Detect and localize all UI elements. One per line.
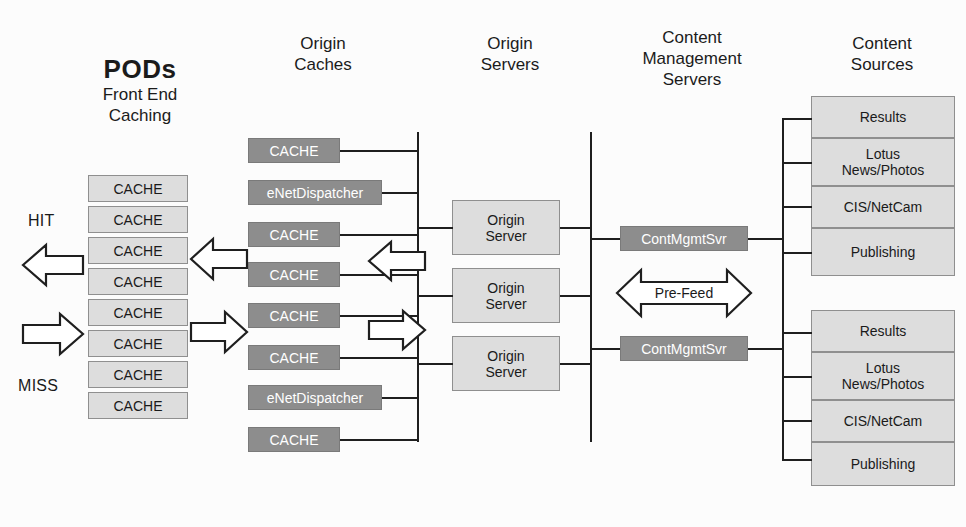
content-source-box[interactable]: Lotus News/Photos	[811, 352, 955, 400]
column-title-origin-servers: Origin Servers	[440, 33, 580, 75]
connector-line	[560, 227, 591, 229]
origin-server-box[interactable]: Origin Server	[452, 200, 560, 255]
pod-cache-box[interactable]: CACHE	[88, 268, 188, 295]
column-title-pods: PODs Front End Caching	[60, 26, 220, 155]
connector-line	[782, 252, 812, 254]
connector-line	[417, 227, 453, 229]
column-title-content-management-servers: Content Management Servers	[612, 27, 772, 90]
connector-line	[782, 206, 812, 208]
content-sources-trunk-line	[782, 118, 784, 459]
connector-line	[782, 459, 812, 461]
origin-cache-box[interactable]: CACHE	[248, 222, 340, 247]
content-source-box[interactable]: CIS/NetCam	[811, 400, 955, 442]
column-title-content-sources: Content Sources	[812, 33, 952, 75]
pod-cache-box[interactable]: CACHE	[88, 299, 188, 326]
connector-line	[590, 348, 620, 350]
content-management-server-box[interactable]: ContMgmtSvr	[620, 336, 748, 361]
origin-cache-inbound-arrow-left-icon	[368, 240, 426, 282]
origin-cache-enetdispatcher-box[interactable]: eNetDispatcher	[248, 385, 382, 410]
pod-cache-box[interactable]: CACHE	[88, 330, 188, 357]
miss-label: MISS	[18, 377, 58, 395]
origin-cache-enetdispatcher-box[interactable]: eNetDispatcher	[248, 180, 382, 205]
connector-line	[782, 162, 812, 164]
connector-line	[782, 332, 812, 334]
origin-cache-bus-line	[417, 132, 419, 442]
origin-cache-box[interactable]: CACHE	[248, 345, 340, 370]
connector-line	[340, 357, 418, 359]
origin-server-bus-line	[590, 132, 592, 442]
content-source-box[interactable]: Lotus News/Photos	[811, 138, 955, 186]
connector-line	[782, 420, 812, 422]
pods-outbound-arrow-right-icon	[190, 310, 248, 354]
origin-cache-box[interactable]: CACHE	[248, 262, 340, 287]
origin-server-box[interactable]: Origin Server	[452, 336, 560, 391]
connector-line	[340, 234, 418, 236]
pods-inbound-arrow-left-icon	[190, 237, 248, 281]
content-source-box[interactable]: Results	[811, 96, 955, 138]
content-management-server-box[interactable]: ContMgmtSvr	[620, 226, 748, 251]
origin-cache-box[interactable]: CACHE	[248, 138, 340, 163]
origin-cache-box[interactable]: CACHE	[248, 303, 340, 328]
pod-cache-box[interactable]: CACHE	[88, 361, 188, 388]
connector-line	[417, 295, 453, 297]
content-source-box[interactable]: Publishing	[811, 228, 955, 276]
connector-line	[382, 397, 418, 399]
pod-cache-box[interactable]: CACHE	[88, 237, 188, 264]
content-source-box[interactable]: CIS/NetCam	[811, 186, 955, 228]
connector-line	[340, 150, 418, 152]
column-title-origin-caches: Origin Caches	[248, 33, 398, 75]
origin-cache-outbound-arrow-right-icon	[368, 309, 426, 351]
content-source-box[interactable]: Publishing	[811, 442, 955, 486]
connector-line	[782, 118, 812, 120]
origin-cache-box[interactable]: CACHE	[248, 427, 340, 452]
origin-server-box[interactable]: Origin Server	[452, 268, 560, 323]
pre-feed-label: Pre-Feed	[636, 285, 732, 301]
hit-arrow-left-icon	[22, 243, 84, 287]
pod-cache-box[interactable]: CACHE	[88, 206, 188, 233]
column-title-pods-sub: Front End Caching	[60, 84, 220, 126]
connector-line	[417, 363, 453, 365]
connector-line	[382, 192, 418, 194]
pod-cache-box[interactable]: CACHE	[88, 392, 188, 419]
diagram-canvas: PODs Front End Caching Origin Caches Ori…	[0, 0, 966, 527]
miss-arrow-right-icon	[22, 312, 84, 356]
connector-line	[340, 439, 418, 441]
connector-line	[782, 376, 812, 378]
hit-label: HIT	[28, 212, 55, 230]
connector-line	[560, 295, 591, 297]
column-title-pods-main: PODs	[104, 54, 177, 84]
connector-line	[560, 363, 591, 365]
connector-line	[748, 348, 784, 350]
content-source-box[interactable]: Results	[811, 310, 955, 352]
connector-line	[590, 238, 620, 240]
pod-cache-box[interactable]: CACHE	[88, 175, 188, 202]
connector-line	[748, 238, 784, 240]
